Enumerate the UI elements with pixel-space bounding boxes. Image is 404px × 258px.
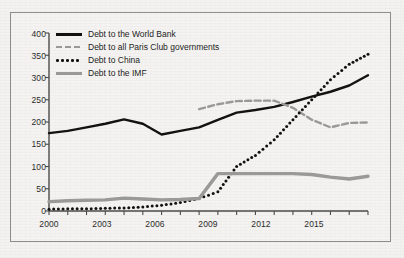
series-solid-world-bank xyxy=(49,75,368,134)
series-thick-imf xyxy=(49,174,368,202)
chart-plot-area xyxy=(0,0,404,258)
chart-figure: 400 350 300 250 200 150 100 50 0 2000 20… xyxy=(0,0,404,258)
chart-series-layer xyxy=(48,53,370,211)
series-dashed-paris-club xyxy=(199,101,368,128)
